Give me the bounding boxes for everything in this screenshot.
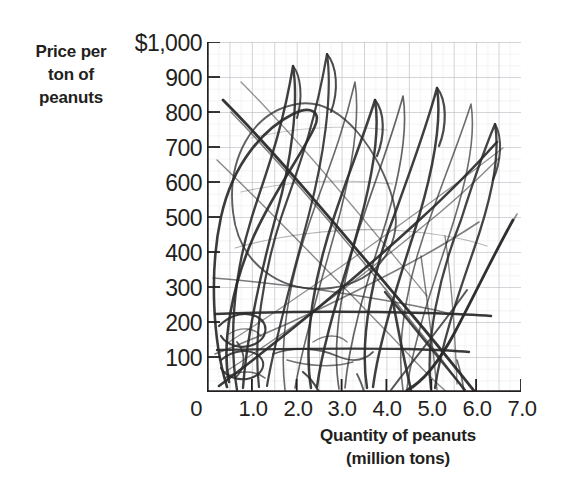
x-tick-label: 2.0: [283, 398, 312, 420]
x-tick-label: 3.0: [327, 398, 356, 420]
x-tick-label: 6.0: [462, 398, 491, 420]
x-tick-label: 4.0: [372, 398, 401, 420]
chart-figure: Price per ton of peanuts $1,000 900 800 …: [0, 0, 568, 484]
x-axis-title: Quantity of peanuts (million tons): [238, 424, 558, 470]
x-tick-label: 1.0: [238, 398, 267, 420]
x-tick-label: 0: [190, 398, 202, 420]
x-tick-label: 5.0: [417, 398, 446, 420]
x-tick-label: 7.0: [507, 398, 536, 420]
plot-area: [207, 42, 521, 392]
x-axis-title-line-2: (million tons): [238, 447, 558, 470]
x-axis-title-line-1: Quantity of peanuts: [238, 424, 558, 447]
chart-canvas: [207, 42, 521, 392]
